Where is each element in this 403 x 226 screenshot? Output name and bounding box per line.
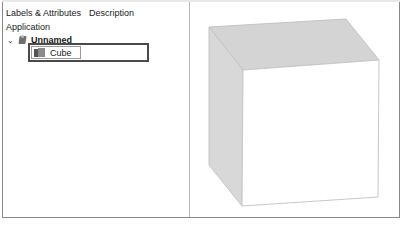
tab-description[interactable]: Description xyxy=(89,8,134,18)
panel-tabs: Labels & Attributes Description xyxy=(6,8,134,18)
tree-root-application[interactable]: Application xyxy=(6,22,50,32)
tab-labels-attributes[interactable]: Labels & Attributes xyxy=(6,8,81,18)
chevron-down-icon[interactable]: ⌄ xyxy=(7,36,16,45)
3d-viewport[interactable] xyxy=(190,2,399,217)
document-icon xyxy=(18,35,27,45)
cube-icon xyxy=(34,48,46,57)
cube-front-face xyxy=(242,60,379,206)
tree-item-label: Cube xyxy=(50,48,72,58)
tree-panel: Labels & Attributes Description Applicat… xyxy=(3,2,189,217)
tree-item-cube[interactable]: Cube xyxy=(31,46,81,59)
cube-shape[interactable] xyxy=(190,2,399,217)
